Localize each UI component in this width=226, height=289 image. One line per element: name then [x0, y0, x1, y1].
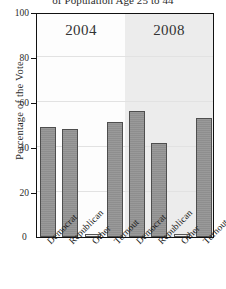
y-axis-zero-label: 0 — [22, 232, 27, 242]
bar-2004-turnout — [107, 122, 123, 237]
y-axis-tick-label: 80 — [20, 53, 30, 63]
y-axis-tick-label: 40 — [20, 143, 30, 153]
x-axis-tick-labels: DemocratRepublicanOtherTurnoutDemocratRe… — [36, 239, 214, 289]
gridline — [37, 101, 213, 102]
y-axis-tick-label: 20 — [20, 188, 30, 198]
y-axis-tick-label: 60 — [20, 98, 30, 108]
y-axis-tick-label: 100 — [15, 8, 29, 18]
chart-figure: of Population Age 25 to 44 Percentage of… — [0, 0, 226, 289]
bar-2008-turnout — [196, 118, 212, 237]
bar-2004-democrat — [40, 127, 56, 237]
gridline — [37, 56, 213, 57]
group-label-2008: 2008 — [125, 22, 213, 39]
group-label-2004: 2004 — [37, 22, 125, 39]
plot-area: 2004 2008 — [36, 13, 214, 238]
chart-title: of Population Age 25 to 44 — [0, 0, 226, 6]
